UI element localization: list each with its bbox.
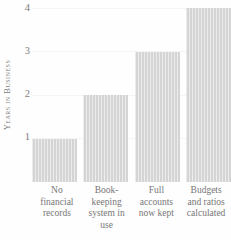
x-label-4: Budgetsand ratioscalculated — [181, 185, 231, 240]
bar-chart: Years in Business 4 3 2 1 N — [0, 0, 231, 240]
plot-area — [32, 8, 231, 182]
bar-slot-3 — [135, 8, 180, 182]
y-tick-label-1: 1 — [10, 132, 30, 143]
bar-book-keeping-system-in-use — [83, 95, 128, 182]
x-label-2: Book-keepingsystem inuse — [82, 185, 132, 240]
y-tick-label-4: 4 — [10, 3, 30, 14]
x-label-1: Nofinancialrecords — [32, 185, 82, 240]
bar-no-financial-records — [32, 139, 77, 183]
x-axis-category-labels: Nofinancialrecords Book-keepingsystem in… — [32, 185, 231, 240]
bar-slot-2 — [83, 8, 128, 182]
y-tick-label-3: 3 — [10, 46, 30, 57]
bar-full-accounts-now-kept — [135, 52, 180, 183]
y-axis-ticks: 4 3 2 1 — [6, 0, 30, 182]
bar-slot-1 — [32, 8, 77, 182]
bars-layer — [32, 8, 231, 182]
bar-budgets-and-ratios-calculated — [186, 8, 231, 182]
x-label-3: Fullaccountsnow kept — [132, 185, 182, 240]
bar-slot-4 — [186, 8, 231, 182]
y-tick-label-2: 2 — [10, 89, 30, 100]
